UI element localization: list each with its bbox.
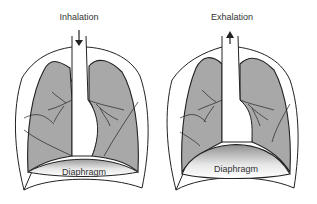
exhalation-panel: Exhalation Diaphragm: [167, 12, 298, 190]
panel-title: Inhalation: [59, 12, 98, 22]
panel-title: Exhalation: [211, 12, 253, 22]
respiration-diagram: Inhalation Diaphragm Exhalation: [0, 0, 317, 204]
diaphragm-label: Diaphragm: [214, 164, 258, 174]
inhalation-panel: Inhalation Diaphragm: [15, 12, 148, 190]
diaphragm-label: Diaphragm: [62, 167, 106, 177]
left-lung: [28, 62, 72, 173]
